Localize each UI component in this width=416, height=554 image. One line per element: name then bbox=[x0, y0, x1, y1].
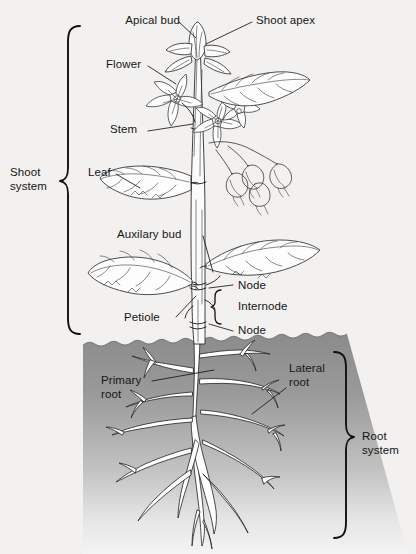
soil-region bbox=[83, 332, 408, 554]
label-node-upper: Node bbox=[238, 279, 266, 293]
label-internode: Internode bbox=[238, 300, 288, 314]
label-leaf: Leaf bbox=[88, 166, 111, 180]
page-bleed-artifact bbox=[6, 466, 12, 477]
label-node-lower: Node bbox=[238, 324, 266, 338]
label-flower: Flower bbox=[106, 58, 141, 72]
leaf-upper-right bbox=[209, 72, 310, 106]
label-shoot-apex: Shoot apex bbox=[256, 14, 315, 28]
leaf-lower-right bbox=[200, 240, 320, 278]
label-petiole: Petiole bbox=[124, 311, 160, 325]
label-stem: Stem bbox=[110, 123, 137, 137]
plant-anatomy-diagram: .ln{fill:none;stroke:#161616;stroke-widt… bbox=[0, 0, 416, 554]
label-apical-bud: Apical bud bbox=[88, 14, 180, 28]
leaf-mid-left bbox=[100, 166, 198, 199]
leaf-lower-left bbox=[88, 250, 198, 295]
brace-shoot-system bbox=[60, 26, 80, 334]
leader-node-lower bbox=[209, 324, 233, 331]
bud-cluster-right bbox=[209, 142, 292, 215]
leader-node-upper bbox=[209, 285, 233, 288]
label-auxilary-bud: Auxilary bud bbox=[117, 228, 181, 242]
brace-internode bbox=[211, 290, 221, 324]
leader-shoot-apex bbox=[206, 22, 252, 44]
diagram-canvas: .ln{fill:none;stroke:#161616;stroke-widt… bbox=[0, 0, 416, 554]
